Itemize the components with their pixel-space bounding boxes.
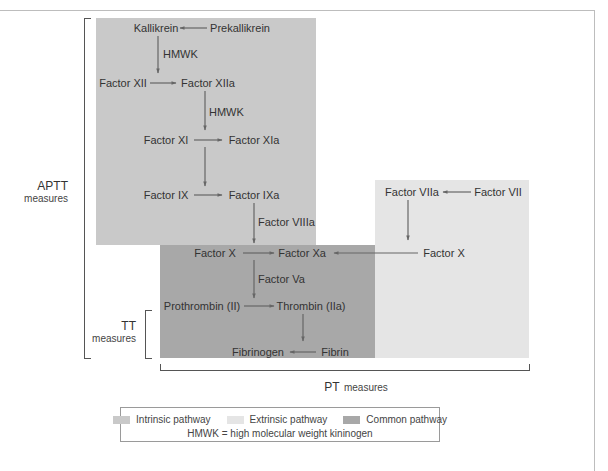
legend: Intrinsic pathway Extrinsic pathway Comm… — [120, 407, 440, 442]
cofactor-factor-viiia: Factor VIIIa — [258, 216, 315, 229]
aptt-measures-label: APTT measures — [20, 179, 68, 205]
tt-abbr: TT — [90, 319, 136, 333]
node-factor-x: Factor X — [194, 247, 236, 260]
legend-item-common: Common pathway — [343, 414, 447, 425]
node-kallikrein: Kallikrein — [134, 22, 179, 35]
node-fibrin: Fibrin — [321, 346, 349, 359]
aptt-abbr: APTT — [20, 179, 68, 193]
legend-items: Intrinsic pathway Extrinsic pathway Comm… — [121, 414, 439, 425]
pt-abbr: PT — [324, 380, 339, 394]
node-factor-ix: Factor IX — [144, 189, 189, 202]
node-factor-vii: Factor VII — [474, 186, 522, 199]
node-factor-xii: Factor XII — [99, 77, 147, 90]
frame-right-border — [594, 10, 595, 471]
node-factor-ixa: Factor IXa — [229, 189, 280, 202]
common-swatch — [343, 416, 360, 424]
node-factor-xiia: Factor XIIa — [181, 77, 235, 90]
legend-note-hmwk: HMWK = high molecular weight kininogen — [121, 428, 439, 439]
aptt-word: measures — [20, 193, 68, 205]
legend-label-extrinsic: Extrinsic pathway — [250, 414, 328, 425]
pt-measures-label: PT measures — [324, 377, 388, 395]
legend-item-extrinsic: Extrinsic pathway — [227, 414, 328, 425]
node-factor-xia: Factor XIa — [229, 134, 280, 147]
aptt-bracket — [84, 18, 91, 359]
legend-item-intrinsic: Intrinsic pathway — [113, 414, 210, 425]
intrinsic-pathway-region — [96, 18, 316, 245]
node-prekallikrein: Prekallikrein — [210, 22, 270, 35]
extrinsic-swatch — [227, 416, 244, 424]
extrinsic-pathway-region — [375, 180, 529, 358]
node-factor-x-extrinsic: Factor X — [423, 247, 465, 260]
node-factor-xa: Factor Xa — [278, 247, 326, 260]
tt-bracket — [145, 310, 152, 359]
node-prothrombin: Prothrombin (II) — [164, 300, 240, 313]
frame-top-border — [0, 10, 595, 11]
tt-measures-label: TT measures — [90, 319, 136, 345]
tt-word: measures — [90, 333, 136, 345]
pt-word: measures — [344, 382, 388, 393]
cofactor-factor-va: Factor Va — [258, 273, 305, 286]
cofactor-hmwk-1: HMWK — [163, 48, 198, 61]
pt-bracket — [160, 364, 530, 371]
node-factor-viia: Factor VIIa — [385, 186, 439, 199]
legend-label-intrinsic: Intrinsic pathway — [136, 414, 210, 425]
node-fibrinogen: Fibrinogen — [232, 346, 284, 359]
intrinsic-swatch — [113, 416, 130, 424]
node-thrombin: Thrombin (IIa) — [276, 300, 345, 313]
cofactor-hmwk-2: HMWK — [209, 106, 244, 119]
node-factor-xi: Factor XI — [144, 134, 189, 147]
legend-label-common: Common pathway — [366, 414, 447, 425]
